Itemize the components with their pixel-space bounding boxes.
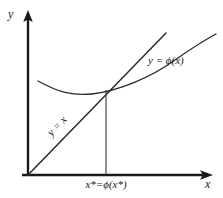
diagram-canvas <box>0 0 223 198</box>
x-axis-label: x <box>205 178 210 190</box>
fixed-point-label: x*=ϕ(x*) <box>85 179 126 190</box>
phi-curve-label: y = ϕ(x) <box>148 55 184 66</box>
identity-line <box>28 33 166 175</box>
y-axis-label: y <box>8 8 13 20</box>
fixed-point-diagram: y x y = ϕ(x) y = x x*=ϕ(x*) <box>0 0 223 198</box>
phi-curve <box>38 34 216 94</box>
